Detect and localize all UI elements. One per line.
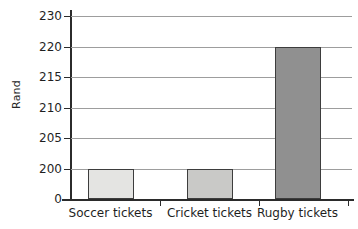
y-axis-tick-label: 230 bbox=[6, 9, 62, 23]
bar-soccer-tickets bbox=[88, 169, 134, 199]
y-axis-tick-label: 215 bbox=[6, 70, 62, 84]
y-axis-tick-label: 200 bbox=[6, 162, 62, 176]
x-axis-category-label: Soccer tickets bbox=[69, 206, 153, 220]
y-axis-tick-label: 0 bbox=[6, 192, 62, 206]
plot-area bbox=[71, 16, 352, 199]
x-axis-category-label: Rugby tickets bbox=[257, 206, 338, 220]
y-axis-tick-label: 205 bbox=[6, 131, 62, 145]
gridline bbox=[71, 16, 352, 17]
x-axis-tick bbox=[348, 201, 349, 206]
x-axis-category-label: Cricket tickets bbox=[167, 206, 252, 220]
y-axis-labels: 2302202152102052000 bbox=[0, 0, 62, 229]
y-axis-tick-label: 210 bbox=[6, 101, 62, 115]
bar-rugby-tickets bbox=[275, 47, 321, 200]
x-axis-tick bbox=[160, 201, 161, 206]
bar-chart: Rand 2302202152102052000 Soccer ticketsC… bbox=[0, 0, 358, 229]
bar-cricket-tickets bbox=[187, 169, 233, 199]
y-axis-tick-label: 220 bbox=[6, 40, 62, 54]
x-axis-line bbox=[62, 199, 354, 201]
